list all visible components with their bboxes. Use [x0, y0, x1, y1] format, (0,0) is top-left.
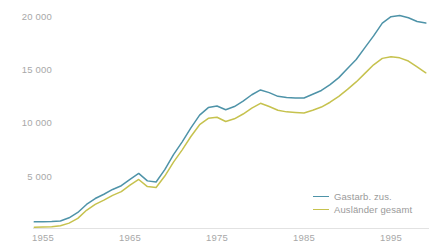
legend-label: Ausländer gesamt — [334, 204, 412, 215]
x-axis-tick-label: 1975 — [192, 232, 242, 243]
legend-item-gastarb[interactable]: Gastarb. zus. — [313, 191, 412, 202]
legend-item-auslaender[interactable]: Ausländer gesamt — [313, 204, 412, 215]
x-axis-tick-label: 1985 — [279, 232, 329, 243]
x-axis-tick-label: 1995 — [366, 232, 416, 243]
chart-legend: Gastarb. zus. Ausländer gesamt — [313, 191, 412, 215]
legend-swatch-icon — [313, 196, 329, 197]
x-axis-tick-label: 1965 — [105, 232, 155, 243]
legend-label: Gastarb. zus. — [334, 191, 392, 202]
x-axis-tick-label: 1955 — [18, 232, 68, 243]
legend-swatch-icon — [313, 209, 329, 210]
chart-container: 20 000 15 000 10 000 5 000 1955 1965 197… — [0, 0, 435, 252]
